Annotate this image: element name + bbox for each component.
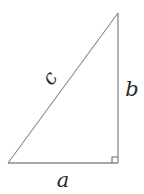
label-c: c [36,66,62,89]
label-b: b [125,77,138,101]
triangle [8,13,118,163]
right-angle-marker [112,157,118,163]
label-a: a [57,168,70,192]
side-c-hypotenuse [8,13,118,163]
right-triangle-diagram: c b a [0,0,144,194]
